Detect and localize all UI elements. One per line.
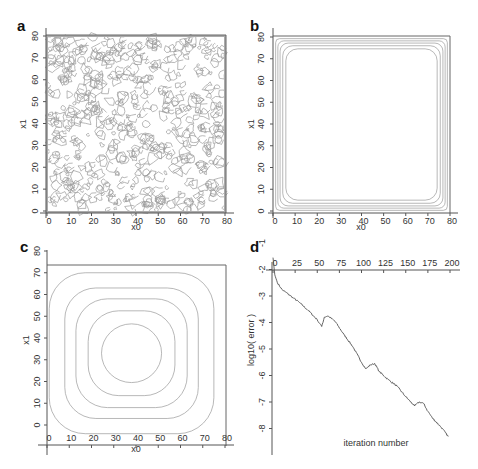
x-tick-label: 60 — [177, 433, 187, 443]
noise-contour — [92, 43, 101, 53]
noise-contour — [140, 187, 151, 194]
panel-c-y-ticks: 01020304050607080 — [32, 246, 47, 428]
panel-c-x-label: x0 — [131, 444, 141, 454]
y-tick-label: 20 — [30, 162, 40, 172]
noise-contour — [178, 60, 186, 70]
x-tick-label: 0 — [272, 216, 277, 226]
x-tick-label: 60 — [403, 216, 413, 226]
panel-d-x-label: iteration number — [343, 438, 408, 448]
noise-contour — [164, 171, 167, 175]
y-tick-label: 30 — [30, 140, 40, 150]
x-tick-label: 25 — [292, 258, 302, 268]
noise-contour — [209, 160, 213, 164]
panel-b-letter: b — [250, 17, 259, 34]
panel-d: d 0255075100125150175200 -1-2-3-4-5-6-7-… — [246, 238, 460, 455]
y-tick-label: 60 — [30, 75, 40, 85]
noise-contour — [211, 48, 216, 52]
x-tick-label: 30 — [111, 433, 121, 443]
noise-contour — [115, 101, 120, 105]
y-tick-label: 50 — [256, 97, 266, 107]
y-tick-label: 40 — [256, 119, 266, 129]
y-tick-label: 60 — [256, 75, 266, 85]
noise-contour — [101, 192, 105, 196]
noise-contour — [135, 163, 140, 169]
noise-contour — [102, 83, 109, 94]
noise-contour — [128, 114, 137, 122]
y-tick-label: -4 — [257, 318, 267, 326]
noise-contour — [117, 106, 125, 116]
panel-a-noise-contours — [45, 33, 229, 217]
figure: a 01020304050607080 01020304050607080 x0… — [0, 0, 478, 469]
noise-contour — [163, 108, 169, 112]
x-tick-label: 80 — [222, 433, 232, 443]
noise-contour — [197, 195, 205, 202]
y-tick-label: 10 — [30, 184, 40, 194]
noise-contour — [176, 136, 184, 144]
y-tick-label: 80 — [256, 32, 266, 42]
x-tick-label: 125 — [378, 258, 393, 268]
noise-contour — [132, 194, 136, 197]
noise-contour — [213, 43, 218, 48]
noise-contour — [173, 168, 183, 177]
noise-contour — [198, 183, 209, 191]
noise-contour — [159, 88, 162, 92]
y-tick-label: -1 — [257, 239, 267, 247]
noise-contour — [193, 192, 199, 198]
noise-contour — [140, 90, 148, 99]
noise-contour — [90, 87, 102, 98]
y-tick-label: -8 — [257, 424, 267, 432]
x-tick-label: 10 — [292, 216, 302, 226]
panel-a-x-label: x0 — [131, 222, 141, 232]
contour-line — [280, 43, 443, 206]
y-tick-label: -5 — [257, 345, 267, 353]
noise-contour — [109, 193, 118, 204]
x-tick-label: 70 — [200, 216, 210, 226]
panel-d-error-curve — [273, 258, 448, 437]
panel-c: c 01020304050607080 01020304050607080 x0… — [20, 238, 234, 455]
noise-contour — [176, 108, 188, 118]
x-tick-label: 0 — [46, 433, 51, 443]
noise-contour — [120, 155, 129, 164]
x-tick-label: 50 — [155, 216, 165, 226]
panel-c-contours — [49, 273, 214, 434]
noise-contour — [147, 171, 157, 180]
noise-contour — [53, 56, 63, 67]
y-tick-label: -6 — [257, 371, 267, 379]
noise-contour — [113, 115, 125, 125]
panel-d-y-label: log10( error ) — [246, 314, 256, 366]
noise-contour — [167, 54, 179, 62]
noise-contour — [49, 155, 58, 164]
noise-contour — [68, 105, 80, 115]
y-tick-label: -3 — [257, 292, 267, 300]
noise-contour — [86, 134, 89, 137]
x-tick-label: 50 — [314, 258, 324, 268]
noise-contour — [48, 47, 52, 51]
noise-contour — [132, 176, 138, 184]
panel-c-y-label: x1 — [21, 335, 31, 345]
noise-contour — [47, 50, 55, 59]
noise-contour — [112, 132, 116, 135]
noise-contour — [52, 202, 56, 207]
x-tick-label: 175 — [422, 258, 437, 268]
panel-b-y-ticks: 01020304050607080 — [256, 32, 273, 214]
y-tick-label: 30 — [256, 141, 266, 151]
noise-contour — [197, 202, 204, 210]
noise-contour — [50, 61, 54, 65]
x-tick-label: 70 — [200, 433, 210, 443]
noise-contour — [139, 147, 144, 154]
noise-contour — [219, 70, 225, 79]
noise-contour — [145, 59, 150, 64]
x-tick-label: 80 — [447, 216, 457, 226]
x-tick-label: 70 — [425, 216, 435, 226]
y-tick-label: 0 — [256, 208, 266, 213]
x-tick-label: 30 — [336, 216, 346, 226]
panel-a-letter: a — [17, 17, 26, 34]
x-tick-label: 20 — [88, 216, 98, 226]
panel-b: b 01020304050607080 01020304050607080 x0… — [246, 17, 458, 232]
noise-contour — [114, 207, 117, 210]
noise-contour — [144, 177, 150, 182]
noise-contour — [51, 180, 62, 190]
y-tick-label: 70 — [30, 53, 40, 63]
x-tick-label: 30 — [111, 216, 121, 226]
y-tick-label: 10 — [256, 184, 266, 194]
